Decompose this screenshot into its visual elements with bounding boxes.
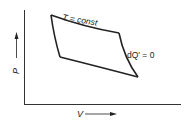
isotherm-label: T = const [62, 12, 99, 27]
x-axis-label: V [77, 109, 84, 119]
isotherm-lower [60, 57, 138, 77]
adiabat-left [51, 15, 60, 57]
v-axis-arrow-icon [85, 112, 117, 116]
adiabat-label: dQ' = 0 [127, 50, 155, 60]
p-axis-arrow-icon [15, 32, 19, 58]
pv-diagram: P V T = const dQ' = 0 [0, 0, 191, 124]
y-axis-label: P [11, 68, 21, 74]
